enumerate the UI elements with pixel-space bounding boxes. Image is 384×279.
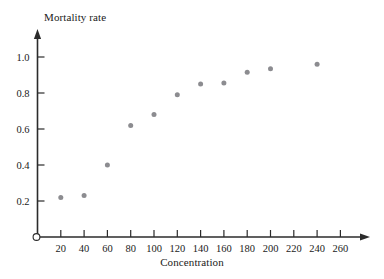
plot-area	[0, 0, 384, 279]
scatter-chart: Mortality rate Concentration 0.20.40.60.…	[0, 0, 384, 279]
data-point	[82, 193, 87, 198]
x-tick-label: 240	[309, 243, 325, 254]
axes	[33, 29, 370, 241]
x-tick-label: 220	[286, 243, 302, 254]
x-tick-label: 60	[102, 243, 113, 254]
x-tick-label: 180	[239, 243, 255, 254]
data-point	[175, 92, 180, 97]
x-axis-arrowhead	[360, 233, 370, 240]
data-point	[198, 82, 203, 87]
y-tick-label: 0.6	[0, 124, 30, 135]
data-point	[152, 112, 157, 117]
x-tick-label: 160	[216, 243, 232, 254]
x-tick-label: 140	[193, 243, 209, 254]
x-tick-label: 200	[263, 243, 279, 254]
x-tick-label: 40	[79, 243, 90, 254]
data-point	[245, 70, 250, 75]
data-points	[58, 62, 319, 200]
y-tick-label: 0.8	[0, 88, 30, 99]
data-point	[268, 66, 273, 71]
origin-marker	[33, 234, 40, 241]
x-axis-title: Concentration	[0, 256, 384, 268]
y-tick-label: 0.4	[0, 160, 30, 171]
y-axis-title: Mortality rate	[44, 11, 106, 23]
x-tick-label: 120	[169, 243, 185, 254]
x-tick-label: 260	[333, 243, 349, 254]
data-point	[105, 163, 110, 168]
data-point	[221, 81, 226, 86]
data-point	[58, 195, 63, 200]
tick-marks	[38, 57, 341, 237]
x-tick-label: 20	[56, 243, 67, 254]
data-point	[128, 123, 133, 128]
y-axis-arrowhead	[34, 29, 41, 39]
y-tick-label: 1.0	[0, 52, 30, 63]
x-tick-label: 80	[125, 243, 136, 254]
data-point	[315, 62, 320, 67]
y-tick-label: 0.2	[0, 196, 30, 207]
x-tick-label: 100	[146, 243, 162, 254]
